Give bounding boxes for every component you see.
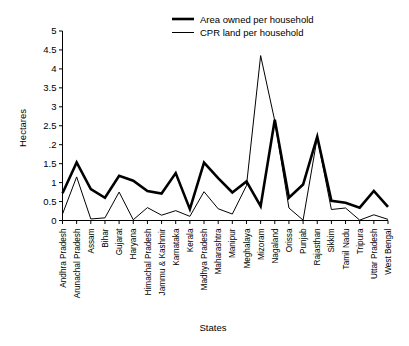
legend-label-1: CPR land per household bbox=[200, 27, 304, 38]
x-tick-label: Andhra Pradesh bbox=[59, 228, 68, 288]
y-tick-label: .2 bbox=[49, 139, 57, 150]
x-tick-label: Maharashtra bbox=[214, 228, 223, 274]
line-chart-svg: Area owned per householdCPR land per hou… bbox=[0, 0, 409, 346]
y-tick-label: 4.5 bbox=[43, 44, 56, 55]
x-tick-label: Bihar bbox=[101, 228, 110, 247]
y-tick-label: 3 bbox=[51, 101, 56, 112]
x-tick-label: West Bengal bbox=[384, 228, 393, 274]
y-tick-label: 4 bbox=[51, 63, 56, 74]
x-tick-label: Karnataka bbox=[172, 228, 181, 266]
y-tick-label: 1.5 bbox=[43, 158, 56, 169]
y-axis: 00.511.5.22.533.544.55 bbox=[43, 25, 62, 226]
x-tick-label: Punjab bbox=[299, 228, 308, 254]
x-tick-label: Himachal Pradesh bbox=[144, 228, 153, 295]
x-tick-label: Madhya Pradesh bbox=[200, 228, 209, 290]
x-tick-label: Kerala bbox=[186, 228, 195, 252]
x-tick-label: Haryana bbox=[129, 228, 138, 259]
chart-legend: Area owned per householdCPR land per hou… bbox=[172, 14, 314, 39]
x-axis: Andhra PradeshArunachal PradeshAssamBiha… bbox=[59, 221, 394, 299]
chart-figure: Area owned per householdCPR land per hou… bbox=[0, 0, 409, 346]
y-tick-label: 2.5 bbox=[43, 120, 56, 131]
x-tick-label: Gujarat bbox=[115, 228, 124, 256]
x-tick-label: Tamil Nadu bbox=[342, 228, 351, 269]
y-tick-label: 5 bbox=[51, 25, 56, 36]
x-tick-label: Orissa bbox=[285, 228, 294, 252]
x-axis-title: States bbox=[200, 322, 227, 333]
x-tick-label: Assam bbox=[87, 228, 96, 253]
x-tick-label: Uttar Pradesh bbox=[370, 228, 379, 279]
x-tick-label: Tripura bbox=[356, 228, 365, 254]
x-tick-label: Arunachal Pradesh bbox=[73, 228, 82, 298]
y-tick-label: 1 bbox=[51, 177, 56, 188]
series-line-cpr-land bbox=[63, 56, 389, 220]
y-axis-title: Hectares bbox=[17, 109, 28, 147]
y-tick-label: 0.5 bbox=[43, 196, 56, 207]
x-tick-label: Manipur bbox=[228, 228, 237, 258]
series-line-area-owned bbox=[63, 120, 389, 209]
y-tick-label: 3.5 bbox=[43, 82, 56, 93]
legend-label-0: Area owned per household bbox=[200, 14, 314, 25]
y-tick-label: 0 bbox=[51, 215, 56, 226]
x-tick-label: Meghalaya bbox=[243, 228, 252, 269]
x-tick-label: Sikkim bbox=[327, 228, 336, 252]
x-tick-label: Jammu & Kashmir bbox=[158, 228, 167, 295]
chart-series bbox=[63, 56, 389, 220]
x-tick-label: Mizoram bbox=[257, 228, 266, 260]
x-tick-label: Rajasthan bbox=[313, 228, 322, 265]
x-tick-label: Nagaland bbox=[271, 228, 280, 263]
